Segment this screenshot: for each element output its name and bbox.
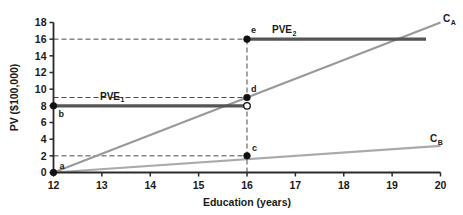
x-tick-label-15: 15 xyxy=(193,179,205,191)
x-axis-title: Education (years) xyxy=(203,196,291,208)
y-tick-label-6: 6 xyxy=(41,116,47,128)
y-tick-label-18: 18 xyxy=(35,16,47,28)
chart-container: 024681012141618121314151617181920Educati… xyxy=(0,0,463,215)
data-point-label-b: b xyxy=(59,109,65,119)
y-axis-title: PV ($100,000) xyxy=(8,64,20,132)
data-point-e xyxy=(244,36,251,43)
y-tick-label-10: 10 xyxy=(35,83,47,95)
series-label-text-pve-1: PVE1 xyxy=(100,91,125,104)
x-tick-label-19: 19 xyxy=(386,179,398,191)
series-label-c-a: CA xyxy=(443,13,456,26)
series-label-text-pve-2: PVE2 xyxy=(272,24,297,37)
y-tick-label-12: 12 xyxy=(35,66,47,78)
series-label-pve-2: PVE2 xyxy=(272,24,297,37)
x-tick-label-12: 12 xyxy=(48,179,60,191)
series-label-text-c-a: CA xyxy=(443,13,456,26)
x-tick-label-14: 14 xyxy=(144,179,156,191)
series-label-sub: B xyxy=(438,139,443,146)
x-tick-label-20: 20 xyxy=(435,179,447,191)
data-point-d xyxy=(244,94,251,101)
series-label-pve-1: PVE1 xyxy=(100,91,125,104)
series-label-text-c-b: CB xyxy=(430,133,443,146)
x-tick-label-18: 18 xyxy=(338,179,350,191)
y-tick-label-14: 14 xyxy=(35,50,47,62)
data-point-label-e: e xyxy=(251,25,256,35)
y-tick-label-0: 0 xyxy=(41,166,47,178)
data-point-b xyxy=(50,103,57,110)
x-tick-label-13: 13 xyxy=(96,179,108,191)
y-tick-label-16: 16 xyxy=(35,33,47,45)
series-label-sub: 1 xyxy=(121,96,125,103)
data-point-a xyxy=(50,169,57,176)
y-tick-label-8: 8 xyxy=(41,100,47,112)
y-tick-label-2: 2 xyxy=(41,150,47,162)
y-tick-label-4: 4 xyxy=(41,133,47,145)
series-label-c-b: CB xyxy=(430,133,443,146)
data-point-label-c: c xyxy=(252,143,257,153)
x-tick-label-17: 17 xyxy=(290,179,302,191)
pv-education-chart: 024681012141618121314151617181920Educati… xyxy=(0,0,463,215)
data-point-c xyxy=(244,153,251,160)
series-label-sub: A xyxy=(451,19,456,26)
data-point-label-d: d xyxy=(251,84,257,94)
x-tick-label-16: 16 xyxy=(241,179,253,191)
data-point-f xyxy=(244,103,251,110)
series-label-sub: 2 xyxy=(293,30,297,37)
